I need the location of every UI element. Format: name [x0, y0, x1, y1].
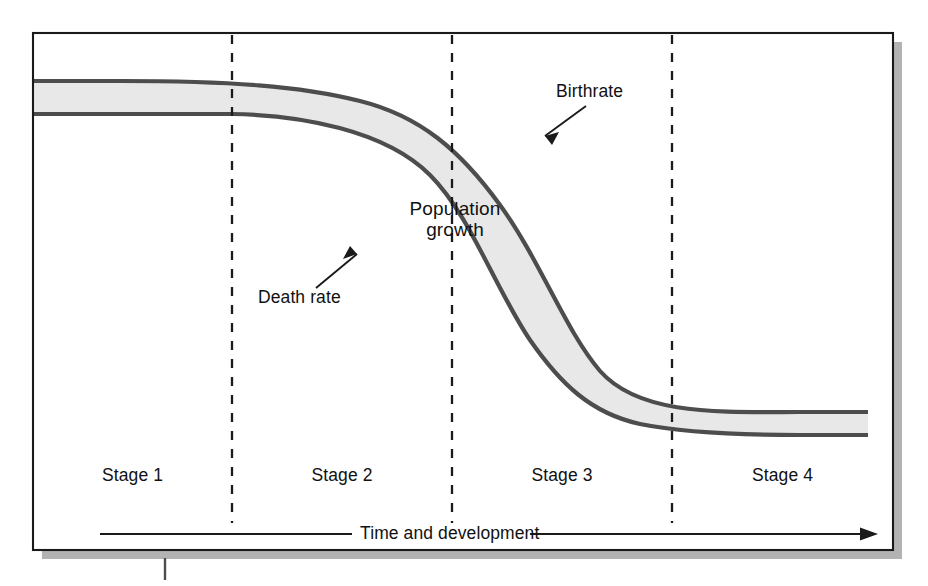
- stage-label-2: Stage 2: [232, 466, 452, 486]
- birthrate-label: Birthrate: [556, 82, 623, 102]
- demographic-transition-figure: Birthrate Death rate Population growth S…: [0, 0, 928, 586]
- stage-label-4: Stage 4: [672, 466, 893, 486]
- population-growth-label: Population growth: [375, 198, 535, 241]
- stage-label-1: Stage 1: [33, 466, 232, 486]
- x-axis-title: Time and development: [360, 524, 539, 544]
- chart-canvas: [0, 0, 928, 586]
- population-growth-label-line2: growth: [375, 219, 535, 240]
- population-growth-label-line1: Population: [375, 198, 535, 219]
- stage-label-3: Stage 3: [452, 466, 672, 486]
- death-rate-label: Death rate: [258, 288, 341, 308]
